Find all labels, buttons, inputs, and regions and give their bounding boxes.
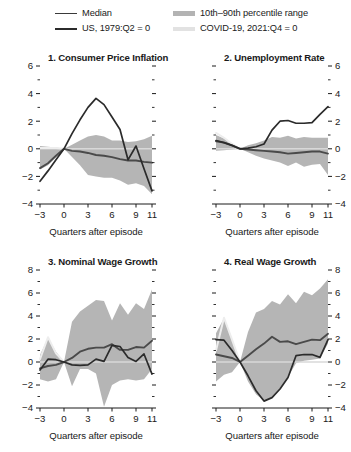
y-tick-label: 6	[335, 60, 340, 71]
y-tick-label: 0	[335, 356, 340, 367]
chart-legend: Median 10th–90th percentile range US, 19…	[0, 6, 351, 46]
percentile-band-area	[216, 135, 328, 175]
x-tick-label: 9	[309, 209, 314, 220]
y-tick-label: 6	[28, 60, 33, 71]
chart-panel-unemployment-rate: 2. Unemployment Rate −3036911−4−20246 Qu…	[176, 50, 351, 251]
y-tick-label: 2	[28, 333, 33, 344]
y-tick-label: −4	[335, 402, 347, 413]
percentile-band-area	[40, 135, 152, 194]
plot-area: −3036911−4−20246	[0, 50, 175, 251]
x-tick-label: 11	[323, 413, 333, 424]
x-axis-caption: Quarters after episode	[190, 430, 351, 441]
chart-panel-real-wage-growth: 4. Real Wage Growth −3036911−4−202468 Qu…	[176, 254, 351, 452]
legend-entry-band: 10th–90th percentile range	[173, 6, 308, 21]
x-tick-label: 6	[285, 209, 290, 220]
x-axis-caption: Quarters after episode	[14, 226, 178, 237]
legend-label-band: 10th–90th percentile range	[200, 8, 308, 19]
legend-label-median: Median	[82, 8, 112, 19]
legend-row-1: Median 10th–90th percentile range	[0, 6, 351, 21]
series-line-covid	[40, 148, 64, 149]
plot-area: −3036911−4−202468	[176, 254, 351, 452]
legend-band-swatch	[173, 11, 195, 16]
x-tick-label: 3	[85, 413, 90, 424]
y-tick-label: 4	[28, 310, 34, 321]
x-tick-label: 9	[309, 413, 314, 424]
x-tick-label: 3	[261, 413, 266, 424]
y-tick-label: −2	[22, 171, 33, 182]
x-tick-label: −3	[35, 413, 46, 424]
chart-panel-nominal-wage-growth: 3. Nominal Wage Growth −3036911−4−202468…	[0, 254, 175, 452]
legend-entry-median: Median	[55, 6, 173, 21]
legend-entry-covid: COVID-19, 2021:Q4 = 0	[173, 21, 297, 36]
y-tick-label: 6	[335, 287, 340, 298]
figure-panel-chart: Median 10th–90th percentile range US, 19…	[0, 0, 351, 452]
y-tick-label: 2	[28, 116, 33, 127]
x-tick-label: −3	[35, 209, 46, 220]
legend-band-swatch-covid	[173, 27, 195, 31]
y-tick-label: 0	[335, 143, 340, 154]
x-tick-label: 3	[261, 209, 266, 220]
y-tick-label: −2	[335, 379, 346, 390]
y-tick-label: −2	[335, 171, 346, 182]
y-tick-label: 8	[335, 264, 340, 275]
y-tick-label: 0	[28, 143, 33, 154]
x-tick-label: −3	[211, 413, 222, 424]
x-tick-label: 0	[237, 413, 242, 424]
y-tick-label: −4	[22, 198, 34, 209]
x-tick-label: 9	[133, 209, 138, 220]
y-tick-label: 2	[335, 116, 340, 127]
y-tick-label: −4	[22, 402, 34, 413]
x-tick-label: 9	[133, 413, 138, 424]
y-tick-label: −4	[335, 198, 347, 209]
y-tick-label: 8	[28, 264, 33, 275]
x-tick-label: 6	[285, 413, 290, 424]
x-tick-label: 0	[237, 209, 242, 220]
x-tick-label: 6	[109, 209, 114, 220]
y-tick-label: 4	[335, 310, 341, 321]
x-tick-label: 6	[109, 413, 114, 424]
panel-grid: 1. Consumer Price Inflation −3036911−4−2…	[0, 50, 351, 452]
legend-entry-us1979: US, 1979:Q2 = 0	[55, 21, 173, 36]
y-tick-label: 2	[335, 333, 340, 344]
x-tick-label: 0	[61, 209, 66, 220]
x-tick-label: 11	[147, 413, 157, 424]
legend-label-us1979: US, 1979:Q2 = 0	[82, 23, 150, 34]
x-tick-label: −3	[211, 209, 222, 220]
y-tick-label: −2	[22, 379, 33, 390]
y-tick-label: 0	[28, 356, 33, 367]
chart-panel-consumer-price-inflation: 1. Consumer Price Inflation −3036911−4−2…	[0, 50, 175, 251]
legend-label-covid: COVID-19, 2021:Q4 = 0	[200, 23, 297, 34]
x-tick-label: 0	[61, 413, 66, 424]
plot-area: −3036911−4−202468	[0, 254, 175, 452]
y-tick-label: 4	[335, 88, 341, 99]
x-tick-label: 11	[147, 209, 157, 220]
x-axis-caption: Quarters after episode	[14, 430, 178, 441]
y-tick-label: 6	[28, 287, 33, 298]
legend-line-swatch-us1979	[55, 28, 77, 30]
y-tick-label: 4	[28, 88, 34, 99]
legend-line-swatch-median	[55, 13, 77, 14]
x-tick-label: 11	[323, 209, 333, 220]
legend-row-2: US, 1979:Q2 = 0 COVID-19, 2021:Q4 = 0	[0, 21, 351, 36]
x-axis-caption: Quarters after episode	[190, 226, 351, 237]
x-tick-label: 3	[85, 209, 90, 220]
plot-area: −3036911−4−20246	[176, 50, 351, 251]
